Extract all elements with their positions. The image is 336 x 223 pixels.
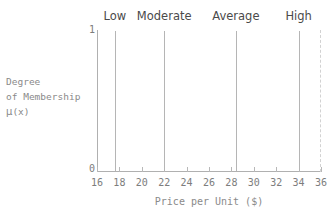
membership-function-chart: Degree of Membership μ(x) 1 0 1618202224…	[0, 0, 336, 223]
membership-spike	[299, 31, 300, 171]
x-tick-label: 26	[198, 177, 220, 188]
x-tick-mark	[276, 167, 277, 172]
y-tick-label-top: 1	[81, 24, 95, 35]
mu-argument: (x)	[12, 106, 29, 117]
x-tick-label: 34	[288, 177, 310, 188]
right-boundary-dashed-line	[320, 30, 321, 172]
x-tick-label: 32	[265, 177, 287, 188]
x-tick-label: 20	[131, 177, 153, 188]
x-tick-label: 16	[86, 177, 108, 188]
x-tick-mark	[119, 167, 120, 172]
membership-category-label: Low	[104, 9, 127, 23]
x-tick-mark	[254, 167, 255, 172]
x-tick-label: 22	[153, 177, 175, 188]
x-tick-mark	[209, 167, 210, 172]
x-tick-mark	[97, 167, 98, 172]
y-axis-label: Degree of Membership μ(x)	[6, 74, 92, 119]
x-tick-label: 24	[176, 177, 198, 188]
y-axis-label-line2: of Membership	[6, 89, 92, 104]
x-tick-label: 30	[243, 177, 265, 188]
membership-spike	[164, 31, 165, 171]
x-tick-label: 36	[310, 177, 332, 188]
x-tick-mark	[231, 167, 232, 172]
y-axis-line	[97, 30, 98, 172]
y-axis-label-line1: Degree	[6, 74, 92, 89]
membership-spike	[236, 31, 237, 171]
membership-category-label: High	[285, 9, 311, 23]
x-axis-title: Price per Unit ($)	[97, 196, 321, 207]
x-tick-mark	[321, 167, 322, 172]
x-tick-mark	[142, 167, 143, 172]
membership-category-label: Moderate	[137, 9, 192, 23]
membership-spike	[115, 31, 116, 171]
x-tick-mark	[187, 167, 188, 172]
x-tick-label: 28	[220, 177, 242, 188]
y-tick-label-bottom: 0	[81, 163, 95, 174]
y-axis-label-mu: μ(x)	[6, 104, 92, 119]
membership-category-label: Average	[212, 9, 259, 23]
x-tick-label: 18	[108, 177, 130, 188]
